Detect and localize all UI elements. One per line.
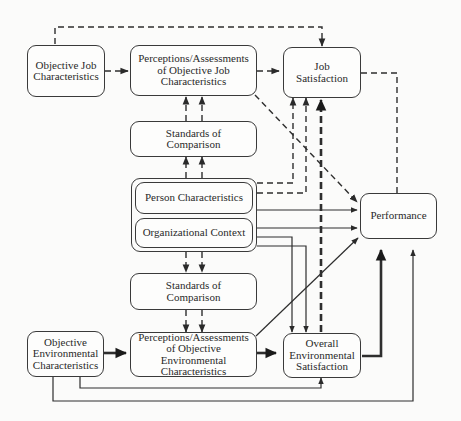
diagram-canvas: Objective Job Characteristics Perception… [0,0,461,421]
node-job-satisfaction: Job Satisfaction [283,47,361,98]
node-organizational-context: Organizational Context [135,218,253,248]
node-performance: Performance [360,193,437,239]
node-objective-environmental-characteristics: Objective Environmental Characteristics [27,331,104,377]
edge-overallenv-to-performance [362,250,381,356]
node-person-characteristics: Person Characteristics [135,182,253,214]
node-standards-of-comparison-bottom: Standards of Comparison [130,273,257,310]
edge-objjob-to-jobsat [55,27,322,46]
node-perceptions-job: Perceptions/Assessments of Objective Job… [130,45,257,96]
edge-person-to-jobsat-1 [257,98,293,183]
node-perceptions-environmental: Perceptions/Assessments of Objective Env… [130,332,257,377]
edge-percenv-to-performance [256,238,358,336]
node-overall-environmental-satisfaction: Overall Environmental Satisfaction [283,333,361,378]
node-objective-job-characteristics: Objective Job Characteristics [27,45,105,97]
edge-person-to-jobsat-2 [257,98,306,193]
node-standards-of-comparison-top: Standards of Comparison [130,121,257,157]
edge-objenv-to-overallenv [80,377,321,388]
edge-org-to-overallenv-2 [257,246,306,332]
edge-jobsat-to-performance [361,73,397,213]
